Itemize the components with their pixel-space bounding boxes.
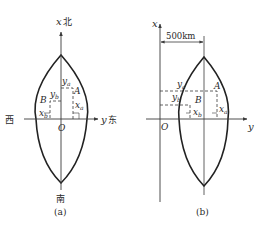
east-label: 东 — [108, 114, 117, 125]
north-label: 北 — [63, 17, 72, 27]
panel-a: x 北 西 y 东 O ya A yb B xa xb 南 (a) — [5, 16, 117, 217]
caption-b: (b) — [196, 207, 209, 217]
point-b-label-a: B — [39, 95, 47, 105]
xb-label-a: xb — [39, 108, 48, 119]
ya-label-b: ya — [176, 79, 186, 90]
point-a-label-b: A — [213, 81, 221, 91]
point-a-projection-b — [160, 91, 217, 119]
point-b-projection-a — [50, 101, 61, 119]
xa-label-b: xa — [219, 104, 228, 115]
point-a-projection-a — [61, 88, 73, 119]
offset-label-b: 500km — [166, 31, 195, 41]
point-a-label-a: A — [73, 86, 81, 96]
y-axis-label-a: y — [100, 114, 107, 125]
panel-b: 500km x ya A yb B xa xb O y (b) — [146, 18, 254, 217]
right-angle-a — [73, 113, 79, 119]
point-b-projection-b — [160, 105, 190, 119]
yb-label-a: yb — [49, 89, 59, 100]
yb-label-b: yb — [171, 92, 181, 103]
caption-a: (a) — [54, 207, 66, 217]
y-axis-label-b: y — [247, 121, 254, 132]
origin-label-b: O — [161, 122, 169, 132]
projection-zone-diagram: x 北 西 y 东 O ya A yb B xa xb 南 (a) 500km — [0, 0, 263, 234]
x-axis-label-a: x — [56, 16, 62, 27]
x-axis-label-b: x — [152, 18, 158, 29]
west-label: 西 — [5, 115, 14, 125]
point-b-label-b: B — [194, 95, 202, 105]
ya-label-a: ya — [61, 76, 71, 87]
south-label: 南 — [56, 193, 65, 204]
origin-label-a: O — [58, 123, 66, 133]
xa-label-a: xa — [75, 100, 84, 111]
xb-label-b: xb — [193, 107, 202, 118]
